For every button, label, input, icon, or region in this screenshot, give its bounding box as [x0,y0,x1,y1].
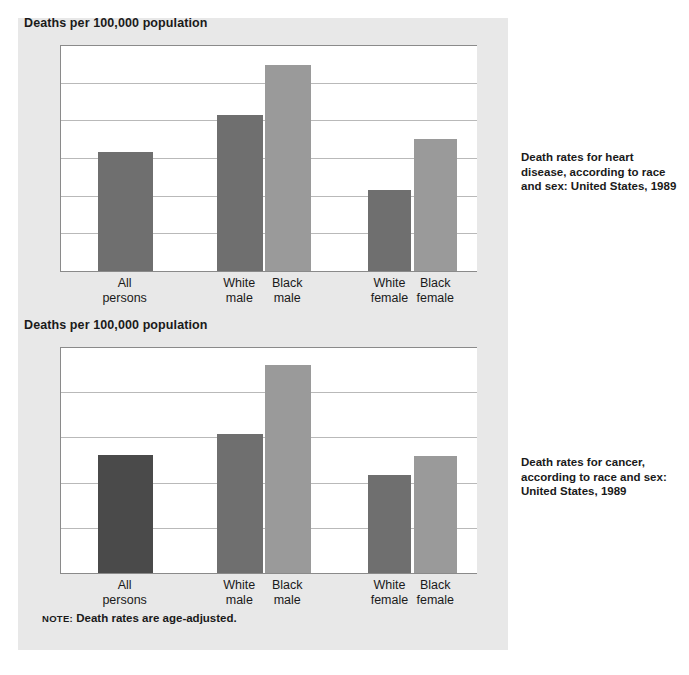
gridline [61,45,477,46]
note: NOTE: Death rates are age-adjusted. [42,612,237,624]
y-axis-tick-mark [60,233,61,234]
x-axis-tick-label: Blackfemale [417,276,455,306]
x-axis-tick-label: Whitemale [223,276,255,306]
y-axis-tick-mark [60,482,61,483]
x-axis-tick-label: Whitefemale [371,578,409,608]
plot-area-heart: 050100150200250300 [60,45,477,272]
plot-wrap-heart: 050100150200250300 [60,45,477,272]
y-axis-tick-mark [60,437,61,438]
bar-all-persons [98,152,152,271]
bar-black-female [414,456,458,573]
y-axis-tick-mark [60,158,61,159]
x-axis-tick-label-line: female [371,291,409,306]
caption-cancer: Death rates for cancer, according to rac… [521,455,681,499]
y-axis-tick-mark [60,120,61,121]
x-axis-tick-label: Allpersons [102,578,146,608]
x-axis-tick-label-line: All [102,276,146,291]
x-axis-tick-label: Blackmale [272,276,303,306]
chart-title-cancer: Deaths per 100,000 population [24,318,208,332]
chart-title-heart: Deaths per 100,000 population [24,16,208,30]
bar-white-female [368,475,412,573]
bar-white-male [217,434,263,573]
x-axis-tick-label-line: Black [417,578,455,593]
x-axis-tick-label-line: male [272,593,303,608]
x-axis-tick-label-line: male [223,593,255,608]
x-axis-tick-label: Whitefemale [371,276,409,306]
y-axis-tick-mark [60,527,61,528]
x-axis-tick-label-line: White [371,578,409,593]
x-axis-tick-label-line: female [371,593,409,608]
x-axis-tick-label-line: male [272,291,303,306]
x-axis-tick-label-line: White [371,276,409,291]
caption-heart-disease: Death rates for heart disease, according… [521,150,681,194]
x-axis-tick-label-line: White [223,276,255,291]
x-axis-tick-label: Blackfemale [417,578,455,608]
y-axis-tick-mark [60,392,61,393]
bar-black-male [265,365,311,573]
gridline [61,347,477,348]
x-axis-tick-label-line: All [102,578,146,593]
x-axis-tick-label-line: female [417,593,455,608]
x-axis-tick-label: Allpersons [102,276,146,306]
bar-black-male [265,65,311,271]
bar-white-female [368,190,412,271]
bar-all-persons [98,455,152,573]
x-axis-tick-label-line: female [417,291,455,306]
x-axis-tick-label-line: Black [272,276,303,291]
x-axis-tick-label-line: Black [272,578,303,593]
y-axis-tick-mark [60,82,61,83]
bar-white-male [217,115,263,271]
x-axis-tick-label-line: male [223,291,255,306]
note-label: NOTE: [42,613,73,624]
x-axis-tick-label-line: Black [417,276,455,291]
x-axis-tick-label: Whitemale [223,578,255,608]
y-axis-tick-mark [60,195,61,196]
x-axis-tick-label-line: persons [102,291,146,306]
plot-wrap-cancer: 050100150200250 [60,347,477,574]
bar-black-female [414,139,458,271]
x-axis-tick-label: Blackmale [272,578,303,608]
x-axis-tick-label-line: White [223,578,255,593]
plot-area-cancer: 050100150200250 [60,347,477,574]
x-axis-tick-label-line: persons [102,593,146,608]
x-axis-labels-heart: AllpersonsWhitemaleBlackmaleWhitefemaleB… [60,276,477,316]
note-text: Death rates are age-adjusted. [76,612,236,624]
